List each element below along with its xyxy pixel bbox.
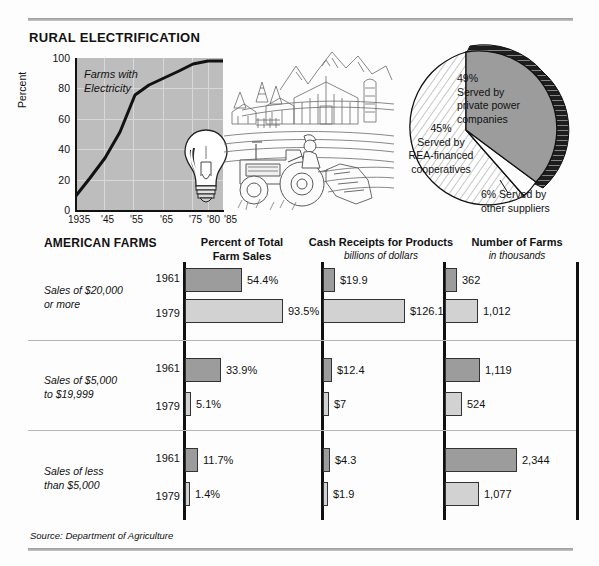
line-chart-x-tick-labels: 1935 '45 '55 '65 '75 '80 '85 xyxy=(68,214,233,228)
value-cash-g3-1961: $4.3 xyxy=(335,454,356,466)
electric-service-pie-chart: 49% Served by private power companies 45… xyxy=(380,30,595,230)
col2-line1: Cash Receipts for Products xyxy=(309,236,453,248)
y-tick-80: 80 xyxy=(44,82,70,94)
year-label-g3-1979: 1979 xyxy=(148,490,180,502)
value-pct-g3-1961: 11.7% xyxy=(203,454,233,466)
bar-farms-g1-1961 xyxy=(445,268,457,292)
value-cash-g1-1979: $126.1 xyxy=(410,305,444,317)
value-pct-g3-1979: 1.4% xyxy=(195,488,220,500)
rural-electrification-line-chart: Percent xyxy=(28,52,228,227)
y-tick-40: 40 xyxy=(44,143,70,155)
column-header-cash-receipts: Cash Receipts for Products billions of d… xyxy=(306,236,456,262)
col3-subtitle: in thousands xyxy=(456,250,578,263)
col3-line1: Number of Farms xyxy=(471,236,562,248)
value-farms-g3-1961: 2,344 xyxy=(522,454,550,466)
pie-label-private-power: 49% Served by private power companies xyxy=(457,72,539,127)
bar-farms-g3-1961 xyxy=(445,448,517,472)
group-label-5000-to-19999: Sales of $5,000 to $19,999 xyxy=(44,373,174,401)
bar-pct-g1-1979 xyxy=(185,299,283,323)
bar-farms-g2-1979 xyxy=(445,392,462,416)
bar-cash-g2-1961 xyxy=(323,358,332,382)
bar-pct-g1-1961 xyxy=(185,268,242,292)
col1-line2: Farm Sales xyxy=(213,250,272,262)
pie-label-other-suppliers: 6% Served by other suppliers xyxy=(481,188,591,215)
bar-cash-g2-1979 xyxy=(323,392,329,416)
value-cash-g3-1979: $1.9 xyxy=(333,488,354,500)
infographic-page: RURAL ELECTRIFICATION Percent xyxy=(0,0,599,566)
line-chart-y-axis xyxy=(75,58,77,211)
pie-label-rea-cooperatives: 45% Served by REA-financed cooperatives xyxy=(399,122,483,177)
value-farms-g2-1979: 524 xyxy=(467,398,485,410)
axis-right-border xyxy=(576,262,579,520)
col1-line1: Percent of Total xyxy=(201,236,283,248)
bar-pct-g2-1979 xyxy=(185,392,191,416)
bar-pct-g3-1961 xyxy=(185,448,198,472)
section-title: RURAL ELECTRIFICATION xyxy=(29,30,200,45)
group-separator-1 xyxy=(28,340,576,341)
bar-cash-g3-1961 xyxy=(323,448,330,472)
line-chart-annotation: Farms with Electricity xyxy=(84,68,138,96)
x-tick-1935: 1935 xyxy=(68,214,90,225)
value-pct-g1-1961: 54.4% xyxy=(247,274,278,286)
value-cash-g2-1979: $7 xyxy=(334,398,346,410)
x-tick-45: '45 xyxy=(101,214,114,225)
year-label-g2-1961: 1961 xyxy=(148,362,180,374)
value-farms-g3-1979: 1,077 xyxy=(484,488,512,500)
bar-farms-g3-1979 xyxy=(445,482,479,506)
value-cash-g2-1961: $12.4 xyxy=(337,364,365,376)
value-farms-g2-1961: 1,119 xyxy=(485,364,512,376)
x-tick-65: '65 xyxy=(160,214,173,225)
bottom-divider xyxy=(28,548,573,551)
x-tick-75: '75 xyxy=(189,214,202,225)
value-pct-g1-1979: 93.5% xyxy=(288,305,319,317)
year-label-g3-1961: 1961 xyxy=(148,452,180,464)
bar-pct-g3-1979 xyxy=(185,482,190,506)
col2-subtitle: billions of dollars xyxy=(306,250,456,263)
value-farms-g1-1961: 362 xyxy=(462,274,480,286)
year-label-g2-1979: 1979 xyxy=(148,400,180,412)
line-chart-y-axis-label: Percent xyxy=(16,72,28,108)
y-tick-20: 20 xyxy=(44,174,70,186)
y-tick-100: 100 xyxy=(44,52,70,64)
bar-farms-g2-1961 xyxy=(445,358,480,382)
column-header-percent-sales: Percent of Total Farm Sales xyxy=(178,236,306,264)
value-cash-g1-1961: $19.9 xyxy=(340,274,368,286)
bar-cash-g1-1979 xyxy=(323,299,405,323)
bar-pct-g2-1961 xyxy=(185,358,221,382)
y-tick-0: 0 xyxy=(44,204,70,216)
x-tick-80: '80 xyxy=(207,214,220,225)
bar-cash-g3-1979 xyxy=(323,482,328,506)
year-label-g1-1979: 1979 xyxy=(148,307,180,319)
bar-cash-g1-1961 xyxy=(323,268,335,292)
group-label-less-than-5000: Sales of less than $5,000 xyxy=(44,464,174,492)
value-pct-g2-1961: 33.9% xyxy=(226,364,257,376)
group-separator-2 xyxy=(28,430,576,431)
x-tick-55: '55 xyxy=(130,214,143,225)
american-farms-title: AMERICAN FARMS xyxy=(44,236,157,250)
value-farms-g1-1979: 1,012 xyxy=(483,305,511,317)
y-tick-60: 60 xyxy=(44,113,70,125)
top-divider xyxy=(28,18,573,21)
source-note: Source: Department of Agriculture xyxy=(30,530,173,541)
line-chart-x-axis xyxy=(75,210,224,212)
farm-scene-illustration xyxy=(222,32,394,224)
year-label-g1-1961: 1961 xyxy=(148,272,180,284)
value-pct-g2-1979: 5.1% xyxy=(196,398,221,410)
bar-farms-g1-1979 xyxy=(445,299,478,323)
column-header-number-of-farms: Number of Farms in thousands xyxy=(456,236,578,262)
